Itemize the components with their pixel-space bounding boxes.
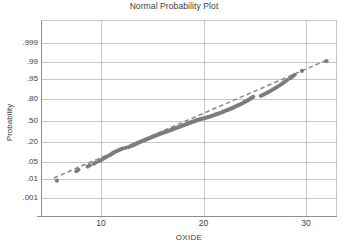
normal-probability-plot: Normal Probability Plot Probability .999… (0, 0, 348, 250)
data-point (88, 163, 92, 167)
data-point (251, 95, 255, 99)
plot-background (41, 20, 337, 216)
data-point (300, 69, 304, 73)
data-point (76, 168, 80, 172)
data-point (293, 73, 297, 77)
data-point (324, 59, 328, 63)
plot-canvas (0, 0, 348, 250)
data-point (55, 179, 59, 183)
